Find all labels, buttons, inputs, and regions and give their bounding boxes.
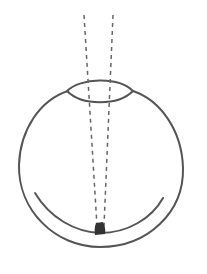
eye-diagram xyxy=(0,0,207,274)
focal-point xyxy=(95,222,106,235)
